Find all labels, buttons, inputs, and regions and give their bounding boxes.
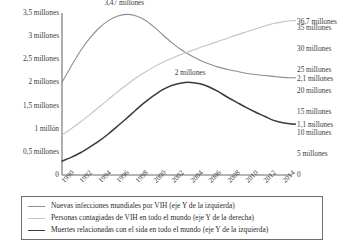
- chart-svg: [0, 0, 346, 196]
- y-left-tick-label: 1,5 millones: [23, 102, 59, 109]
- data-point-label: 2,1 millones: [297, 74, 333, 83]
- chart-plot-area: 3,5 millones3 millones2,5 millones2 mill…: [0, 0, 346, 196]
- y-right-tick-label: 10 millones: [297, 129, 331, 136]
- legend-item-people-living-with-hiv: Personas contagiadas de VIH en todo el m…: [22, 212, 322, 224]
- y-left-tick-label: 3,5 millones: [23, 9, 59, 16]
- y-left-tick-label: 1 millón: [34, 125, 59, 132]
- data-point-label: 2 millones: [175, 68, 206, 77]
- y-right-tick-label: 25 millones: [297, 66, 331, 73]
- y-right-tick-label: 5 millones: [297, 150, 328, 157]
- chart-figure: 3,5 millones3 millones2,5 millones2 mill…: [0, 0, 346, 250]
- data-point-label: 1,1 millones: [297, 120, 333, 129]
- series-lines: [62, 14, 292, 161]
- data-point-label: 3,47 millones: [104, 0, 144, 7]
- y-right-tick-label: 30 millones: [297, 45, 331, 52]
- y-right-tick-label: 20 millones: [297, 87, 331, 94]
- data-point-label: 36,7 millones: [297, 17, 337, 26]
- legend-swatch-people-living-with-hiv: [28, 218, 45, 219]
- legend-item-aids-deaths: Muertes relacionadas con el sida en todo…: [22, 224, 322, 236]
- legend-label-people-living-with-hiv: Personas contagiadas de VIH en todo el m…: [51, 214, 254, 221]
- series-line-aids-deaths: [62, 82, 292, 161]
- y-left-tick-label: 2,5 millones: [23, 55, 59, 62]
- series-line-people-living-with-hiv: [62, 21, 292, 135]
- axes: [62, 13, 292, 175]
- y-right-tick-label: 15 millones: [297, 108, 331, 115]
- legend-label-new-infections: Nuevas infecciones mundiales por VIH (ej…: [51, 202, 235, 209]
- chart-legend: Nuevas infecciones mundiales por VIH (ej…: [21, 196, 323, 240]
- y-left-tick-label: 3 millones: [28, 32, 59, 39]
- y-left-tick-label: 0,5 millones: [23, 148, 59, 155]
- y-right-tick-label: 0: [297, 171, 301, 178]
- y-left-tick-label: 2 millones: [28, 78, 59, 85]
- legend-label-aids-deaths: Muertes relacionadas con el sida en todo…: [51, 226, 268, 233]
- y-left-tick-label: 0: [55, 171, 59, 178]
- legend-swatch-new-infections: [28, 206, 45, 207]
- legend-swatch-aids-deaths: [28, 230, 45, 231]
- legend-item-new-infections: Nuevas infecciones mundiales por VIH (ej…: [22, 200, 322, 212]
- annotation-leaders: [292, 21, 296, 125]
